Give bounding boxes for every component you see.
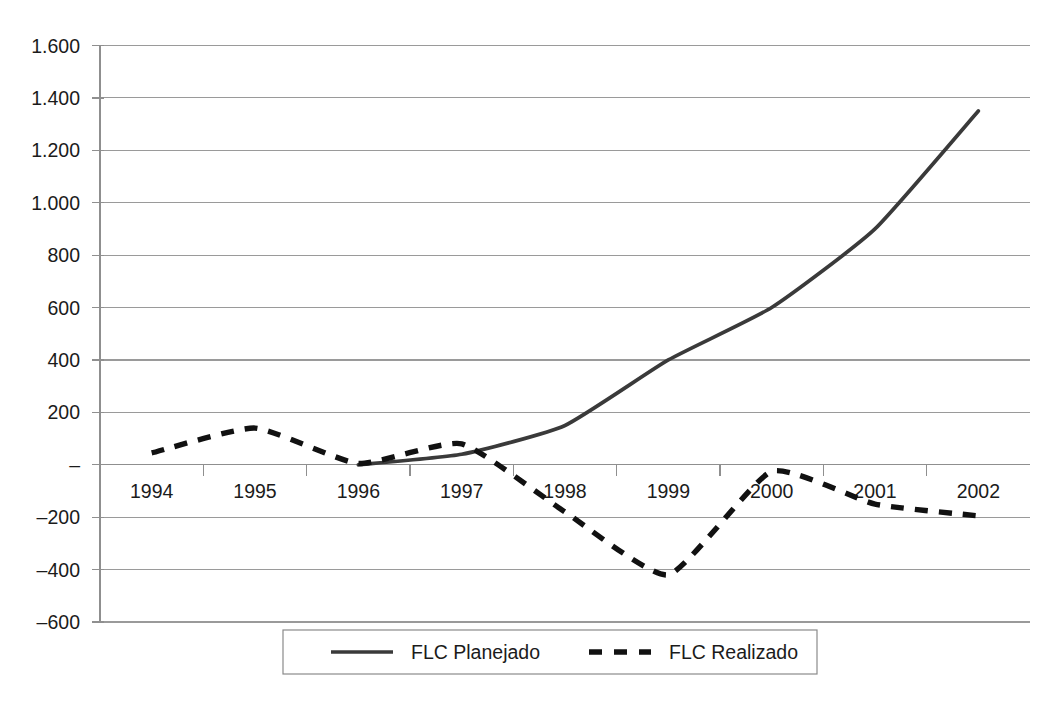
data-series-group <box>152 111 979 575</box>
legend-label: FLC Planejado <box>411 641 540 663</box>
line-chart: 1.6001.4001.2001.000800600400200––200–40… <box>0 0 1060 714</box>
x-axis-tick-label: 1995 <box>233 480 277 502</box>
x-axis-tick-label: 1997 <box>440 480 483 502</box>
x-axis-tick-label: 1996 <box>337 480 380 502</box>
x-axis-ticks-group <box>203 465 926 476</box>
x-axis-tick-label: 2000 <box>750 480 794 502</box>
x-axis-tick-label: 1998 <box>543 480 586 502</box>
x-axis-tick-label: 1994 <box>130 480 174 502</box>
y-axis-tick-label: – <box>69 454 80 476</box>
y-axis-tick-label: 800 <box>47 244 80 266</box>
y-axis-tick-label: –400 <box>37 559 81 581</box>
y-axis-tick-labels-group: 1.6001.4001.2001.000800600400200––200–40… <box>31 35 80 634</box>
y-axis-tick-label: 1.600 <box>31 35 80 57</box>
y-axis-tick-label: 1.200 <box>31 139 80 161</box>
x-axis-tick-labels-group: 199419951996199719981999200020012002 <box>130 480 1000 502</box>
y-axis-tick-label: 600 <box>47 297 80 319</box>
y-axis-tick-label: 1.400 <box>31 87 80 109</box>
chart-canvas: 1.6001.4001.2001.000800600400200––200–40… <box>0 0 1060 714</box>
legend-label: FLC Realizado <box>669 641 798 663</box>
x-axis-tick-label: 2002 <box>957 480 1000 502</box>
y-axis-ticks-group <box>92 46 104 623</box>
x-axis-tick-label: 2001 <box>853 480 896 502</box>
y-axis-tick-label: 400 <box>47 349 80 371</box>
y-axis-tick-label: –600 <box>37 611 81 633</box>
y-axis-tick-label: 1.000 <box>31 192 80 214</box>
x-axis-tick-label: 1999 <box>647 480 690 502</box>
chart-legend: FLC PlanejadoFLC Realizado <box>283 630 817 674</box>
series-line-flc-planejado <box>358 111 978 465</box>
y-axis-tick-label: –200 <box>37 506 81 528</box>
gridlines-group <box>100 46 1030 623</box>
y-axis-tick-label: 200 <box>47 401 80 423</box>
